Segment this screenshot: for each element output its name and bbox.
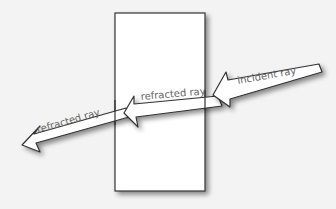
refraction-diagram: incident ray refracted ray refracted ray (0, 0, 336, 209)
